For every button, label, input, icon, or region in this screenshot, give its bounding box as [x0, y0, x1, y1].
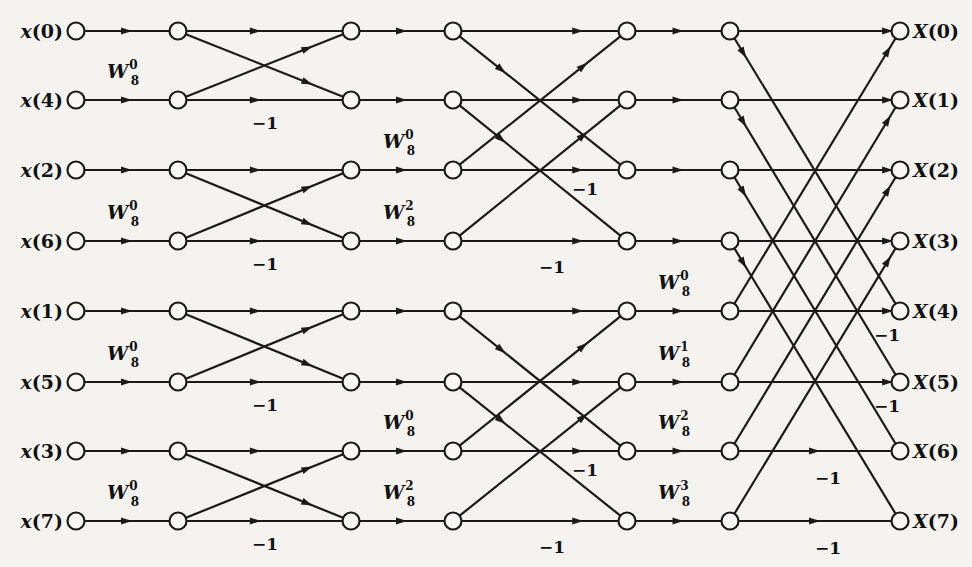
negation-label: −1 — [572, 460, 598, 480]
node-circle-icon — [68, 303, 85, 320]
arrowhead-icon — [396, 447, 407, 454]
input-label: x(4) — [19, 89, 63, 111]
node-circle-icon — [170, 513, 187, 530]
node-circle-icon — [343, 374, 360, 391]
node-circle-icon — [892, 23, 909, 40]
node-circle-icon — [343, 513, 360, 530]
node-circle-icon — [445, 92, 462, 109]
negation-label: −1 — [815, 468, 841, 488]
arrowhead-icon — [572, 27, 583, 34]
node-circle-icon — [445, 303, 462, 320]
twiddle-factor-label: W38 — [658, 479, 690, 509]
node-circle-icon — [343, 443, 360, 460]
twiddle-factor-label: W08 — [383, 128, 415, 158]
arrowhead-icon — [572, 517, 583, 524]
node-circle-icon — [445, 162, 462, 179]
arrowhead-icon — [121, 166, 132, 173]
node-circle-icon — [722, 303, 739, 320]
arrowhead-icon — [301, 498, 314, 509]
node-circle-icon — [892, 374, 909, 391]
arrowhead-icon — [673, 378, 684, 385]
node-circle-icon — [892, 443, 909, 460]
node-circle-icon — [619, 374, 636, 391]
negation-label: −1 — [874, 325, 900, 345]
node-circle-icon — [619, 443, 636, 460]
node-circle-icon — [722, 443, 739, 460]
node-circle-icon — [722, 92, 739, 109]
node-circle-icon — [445, 443, 462, 460]
arrowhead-icon — [121, 27, 132, 34]
arrowhead-icon — [250, 517, 261, 524]
node-circle-icon — [445, 23, 462, 40]
input-label: x(1) — [19, 300, 63, 322]
output-label: X(6) — [912, 440, 959, 462]
node-circle-icon — [68, 23, 85, 40]
arrowhead-icon — [882, 184, 894, 197]
arrowhead-icon — [737, 116, 749, 129]
arrowhead-icon — [301, 183, 314, 194]
node-circle-icon — [619, 233, 636, 250]
negation-label: −1 — [252, 113, 278, 133]
node-circle-icon — [445, 374, 462, 391]
node-circle-icon — [68, 374, 85, 391]
arrowhead-icon — [301, 43, 314, 54]
arrowhead-icon — [572, 166, 583, 173]
arrowhead-icon — [673, 237, 684, 244]
input-label: x(6) — [19, 230, 63, 252]
output-label: X(5) — [912, 371, 959, 393]
node-circle-icon — [445, 233, 462, 250]
input-label: x(3) — [19, 440, 63, 462]
arrowhead-icon — [673, 166, 684, 173]
arrowhead-icon — [121, 96, 132, 103]
twiddle-factor-label: W08 — [383, 409, 415, 439]
arrowhead-icon — [301, 463, 314, 474]
node-circle-icon — [343, 303, 360, 320]
node-circle-icon — [343, 23, 360, 40]
arrowhead-icon — [396, 96, 407, 103]
node-circle-icon — [722, 162, 739, 179]
arrowhead-icon — [121, 237, 132, 244]
arrowhead-icon — [737, 46, 749, 59]
node-circle-icon — [722, 513, 739, 530]
node-circle-icon — [68, 233, 85, 250]
arrowhead-icon — [121, 307, 132, 314]
arrowhead-icon — [572, 378, 583, 385]
node-circle-icon — [892, 162, 909, 179]
arrowhead-icon — [301, 359, 314, 370]
arrowhead-icon — [250, 27, 261, 34]
arrowhead-icon — [396, 166, 407, 173]
node-circle-icon — [892, 233, 909, 250]
arrowhead-icon — [737, 256, 749, 269]
node-circle-icon — [892, 303, 909, 320]
arrowhead-icon — [673, 517, 684, 524]
output-label: X(7) — [912, 510, 959, 532]
arrowhead-icon — [396, 517, 407, 524]
node-circle-icon — [343, 92, 360, 109]
node-circle-icon — [892, 513, 909, 530]
twiddle-factor-label: W08 — [658, 269, 690, 299]
node-circle-icon — [619, 23, 636, 40]
node-circle-icon — [445, 513, 462, 530]
negation-label: −1 — [539, 537, 565, 557]
twiddle-factor-label: W08 — [107, 479, 139, 509]
nodes-layer — [68, 23, 909, 530]
arrowhead-icon — [121, 517, 132, 524]
arrowhead-icon — [673, 27, 684, 34]
arrowhead-icon — [250, 447, 261, 454]
arrowhead-icon — [121, 447, 132, 454]
fft-butterfly-diagram: x(0)x(4)x(2)x(6)x(1)x(5)x(3)x(7)X(0)X(1)… — [0, 0, 972, 567]
arrowhead-icon — [250, 378, 261, 385]
negation-label: −1 — [252, 395, 278, 415]
arrowhead-icon — [301, 324, 314, 335]
arrowhead-icon — [301, 218, 314, 229]
arrowhead-icon — [250, 166, 261, 173]
node-circle-icon — [170, 443, 187, 460]
arrowhead-icon — [882, 114, 894, 127]
negation-label: −1 — [815, 538, 841, 558]
twiddle-factor-label: W18 — [658, 340, 690, 370]
arrowhead-icon — [301, 77, 314, 88]
output-label: X(4) — [912, 300, 959, 322]
output-label: X(0) — [912, 20, 959, 42]
node-circle-icon — [343, 233, 360, 250]
node-circle-icon — [619, 513, 636, 530]
